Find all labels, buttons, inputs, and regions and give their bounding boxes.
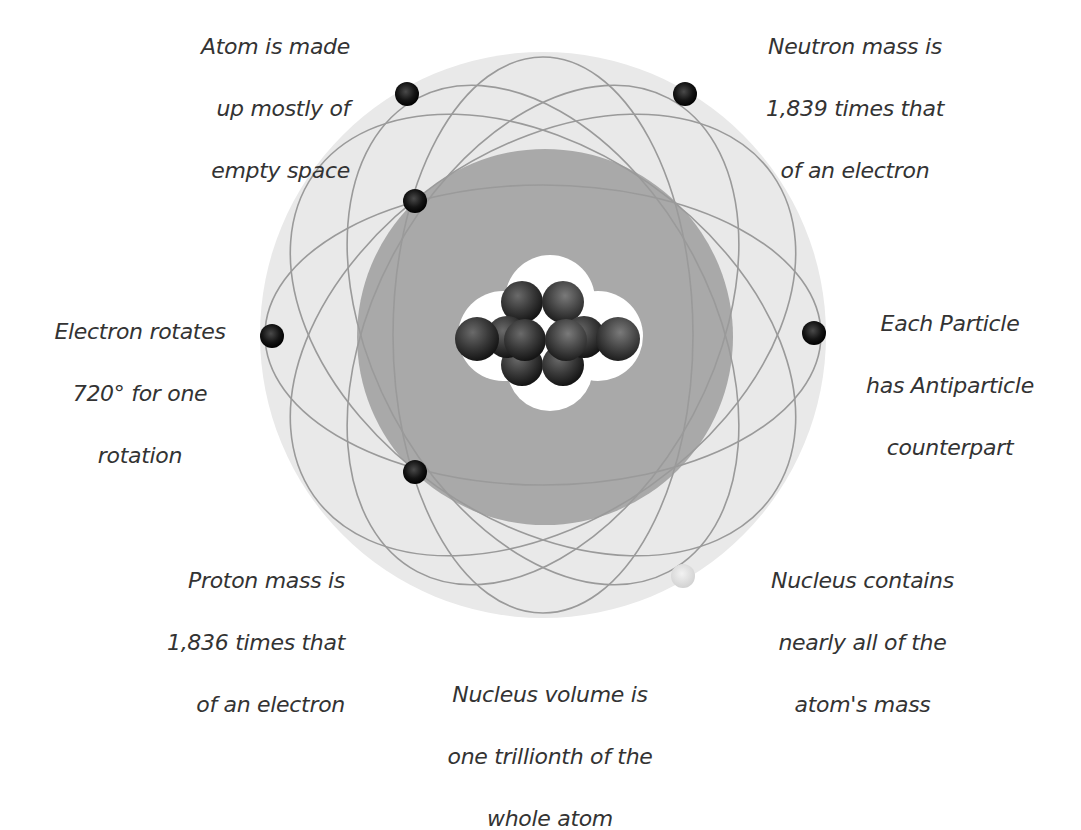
caption-line: whole atom — [430, 803, 670, 830]
caption-line: up mostly of — [150, 93, 350, 124]
caption-line: counterpart — [855, 432, 1045, 463]
caption-neutron-mass: Neutron mass is 1,839 times that of an e… — [745, 0, 965, 217]
caption-nucleus-mass: Nucleus contains nearly all of the atom'… — [755, 534, 970, 751]
caption-line: Nucleus volume is — [430, 679, 670, 710]
faded-electron — [671, 564, 695, 588]
electron — [260, 324, 284, 348]
caption-line: has Antiparticle — [855, 370, 1045, 401]
proton-particle — [542, 281, 584, 323]
caption-line: empty space — [150, 155, 350, 186]
caption-line: Electron rotates — [40, 316, 240, 347]
caption-line: 1,836 times that — [125, 627, 345, 658]
electron — [403, 460, 427, 484]
neutron-particle — [504, 319, 546, 361]
caption-antiparticle: Each Particle has Antiparticle counterpa… — [855, 277, 1045, 494]
caption-line: atom's mass — [755, 689, 970, 720]
proton-particle — [545, 319, 587, 361]
caption-empty-space: Atom is made up mostly of empty space — [150, 0, 350, 217]
electron — [403, 189, 427, 213]
caption-line: one trillionth of the — [430, 741, 670, 772]
caption-line: of an electron — [745, 155, 965, 186]
caption-line: Each Particle — [855, 308, 1045, 339]
caption-line: of an electron — [125, 689, 345, 720]
caption-line: 1,839 times that — [745, 93, 965, 124]
caption-line: nearly all of the — [755, 627, 970, 658]
caption-proton-mass: Proton mass is 1,836 times that of an el… — [125, 534, 345, 751]
electron — [673, 82, 697, 106]
caption-line: rotation — [40, 440, 240, 471]
proton-particle — [596, 317, 640, 361]
caption-line: 720° for one — [40, 378, 240, 409]
caption-line: Atom is made — [150, 31, 350, 62]
electron — [395, 82, 419, 106]
electron — [802, 321, 826, 345]
caption-nucleus-volume: Nucleus volume is one trillionth of the … — [430, 648, 670, 830]
neutron-particle — [455, 317, 499, 361]
caption-electron-rotation: Electron rotates 720° for one rotation — [40, 285, 240, 502]
caption-line: Proton mass is — [125, 565, 345, 596]
caption-line: Neutron mass is — [745, 31, 965, 62]
caption-line: Nucleus contains — [755, 565, 970, 596]
